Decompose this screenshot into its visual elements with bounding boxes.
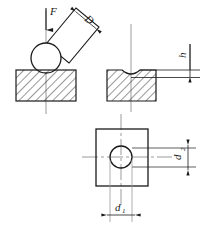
plan-view: d 2 d 1 <box>82 114 196 222</box>
indent-diameter-d1-subscript: 1 <box>122 207 126 215</box>
force-label: F <box>49 5 57 17</box>
indent-depth-label: h <box>176 52 188 58</box>
indenter-ball <box>31 43 61 73</box>
indentation-view: h <box>107 24 200 112</box>
specimen-block-indented <box>107 70 156 101</box>
technical-drawing-canvas: D F <box>0 0 210 233</box>
indent-diameter-d2-label: d <box>171 154 183 160</box>
specimen-block-loading <box>16 70 76 101</box>
indent-diameter-d2-subscript: 2 <box>179 147 187 151</box>
indent-diameter-d1-label: d <box>115 201 121 213</box>
loading-view: D F <box>16 5 99 114</box>
indentation-circle <box>110 146 132 168</box>
brinell-hardness-diagram: D F <box>0 0 210 233</box>
